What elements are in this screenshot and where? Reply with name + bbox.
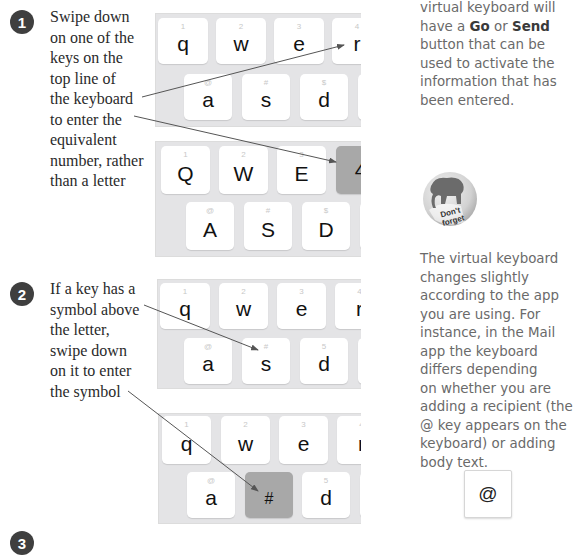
key-q[interactable]: 1q: [162, 416, 211, 464]
text-line: virtual keyboard will: [420, 0, 557, 18]
step-2-badge: 2: [10, 282, 34, 306]
keyboard-step2-after: 1q 2w 3e 4r @a # 5d 6f: [158, 413, 362, 524]
step-1-text: Swipe down on one of the keys on the top…: [50, 7, 144, 192]
keyboard-step1-after: 1Q 2W 3E 4 @A #S $D &F: [155, 141, 362, 257]
text-line: top line of: [50, 69, 144, 90]
elephant-icon: Don't forget: [421, 170, 479, 228]
text-line: the keyboard: [50, 89, 144, 110]
key-r[interactable]: 4r: [337, 416, 362, 464]
key-4-pressed[interactable]: 4: [336, 146, 362, 194]
text-line: you are using. For: [420, 306, 573, 325]
key-r[interactable]: 4r: [335, 283, 362, 329]
key-w[interactable]: 2w: [221, 416, 270, 464]
text-line: been entered.: [420, 92, 557, 111]
key-q[interactable]: 1q: [158, 18, 208, 64]
key-q[interactable]: 1q: [160, 283, 210, 329]
sidebar-tip-text: virtual keyboard will have a Go or Send …: [420, 0, 557, 110]
key-S[interactable]: #S: [244, 202, 292, 250]
key-e[interactable]: 3e: [277, 283, 326, 329]
key-e[interactable]: 3e: [274, 18, 324, 64]
dont-forget-badge: Don't forget: [421, 170, 479, 228]
key-E[interactable]: 3E: [277, 146, 326, 194]
key-d[interactable]: $d: [300, 74, 348, 120]
key-Q[interactable]: 1Q: [161, 146, 210, 194]
text-line: equivalent: [50, 130, 144, 151]
text-line: the symbol: [50, 382, 139, 403]
send-label: Send: [512, 19, 550, 34]
text-line: Swipe down: [50, 7, 144, 28]
key-s[interactable]: #s: [242, 74, 290, 120]
key-W[interactable]: 2W: [219, 146, 268, 194]
key-w[interactable]: 2w: [219, 283, 268, 329]
text-line: button that can be: [420, 36, 557, 55]
text-line: The virtual keyboard: [420, 250, 573, 269]
key-a[interactable]: @a: [184, 338, 232, 384]
text-line: according to the app: [420, 287, 573, 306]
key-d[interactable]: 5d: [302, 472, 350, 518]
text-line: changes slightly: [420, 269, 573, 288]
key-w[interactable]: 2w: [216, 18, 266, 64]
text-line: symbol above: [50, 300, 139, 321]
text-line: adding a recipient (the: [420, 398, 573, 417]
text-line: the letter,: [50, 320, 139, 341]
key-D[interactable]: $D: [302, 202, 350, 250]
text-line-go-send: have a Go or Send: [420, 18, 557, 37]
key-a[interactable]: @a: [187, 472, 235, 518]
text-line: than a letter: [50, 171, 144, 192]
key-r[interactable]: 4r: [332, 18, 362, 64]
at-key[interactable]: @: [464, 470, 512, 518]
key-a[interactable]: @a: [184, 74, 232, 120]
text-line: @ key appears on the: [420, 417, 573, 436]
text-line: instance, in the Mail: [420, 324, 573, 343]
keyboard-step2-before: 1q 2w 3e 4r @a #s 5d 6f: [157, 279, 362, 389]
key-s[interactable]: #s: [242, 338, 290, 384]
key-d[interactable]: 5d: [300, 338, 348, 384]
key-hash-pressed[interactable]: #: [245, 472, 293, 518]
text-line: number, rather: [50, 151, 144, 172]
step-3-badge: 3: [10, 531, 34, 555]
text-line: to enter the: [50, 110, 144, 131]
text-line: keyboard) or adding: [420, 435, 573, 454]
sidebar-note-text: The virtual keyboard changes slightly ac…: [420, 250, 573, 472]
text-line: differs depending: [420, 361, 573, 380]
go-label: Go: [470, 19, 490, 34]
text-line: on it to enter: [50, 361, 139, 382]
text-line: app the keyboard: [420, 343, 573, 362]
key-e[interactable]: 3e: [279, 416, 328, 464]
text-line: on whether you are: [420, 380, 573, 399]
text-line: information that has: [420, 73, 557, 92]
step-2-text: If a key has a symbol above the letter, …: [50, 279, 139, 402]
text-line: on one of the: [50, 28, 144, 49]
text-line: swipe down: [50, 341, 139, 362]
key-A[interactable]: @A: [186, 202, 234, 250]
keyboard-step1-before: 1q 2w 3e 4r @a #s $d &f: [155, 13, 362, 127]
text-line: keys on the: [50, 48, 144, 69]
text-line: If a key has a: [50, 279, 139, 300]
step-1-badge: 1: [10, 10, 34, 34]
text-line: used to activate the: [420, 55, 557, 74]
